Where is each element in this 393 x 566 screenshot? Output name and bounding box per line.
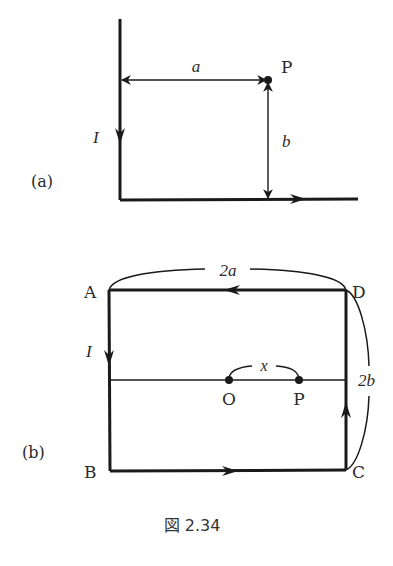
label-x: x xyxy=(259,357,267,374)
label-point-p: P xyxy=(281,57,292,77)
figure-canvas: a P b I (a) A D B C 2 xyxy=(0,0,393,566)
panel-b: A D B C 2a 2b x O P I (b) xyxy=(22,261,375,482)
panel-a: a P b I (a) xyxy=(31,19,358,204)
wire-horizontal-a xyxy=(120,199,358,200)
label-point-p: P xyxy=(293,389,304,409)
panel-label-a: (a) xyxy=(31,172,53,191)
brace-x xyxy=(276,366,299,378)
figure-caption: 図 2.34 xyxy=(164,516,221,535)
corner-label-a: A xyxy=(83,282,97,302)
label-2b: 2b xyxy=(358,371,375,390)
brace-x xyxy=(229,366,252,378)
brace-2a xyxy=(109,269,205,290)
corner-label-b: B xyxy=(84,462,97,482)
label-current-i: I xyxy=(92,128,100,147)
label-current-i: I xyxy=(85,342,93,361)
corner-label-c: C xyxy=(352,462,365,482)
point-p-dot xyxy=(264,76,272,84)
corner-label-d: D xyxy=(352,282,366,302)
brace-2a xyxy=(250,269,346,290)
label-point-o: O xyxy=(222,389,236,409)
brace-2b xyxy=(346,396,369,470)
label-2a: 2a xyxy=(220,261,237,280)
label-a: a xyxy=(192,57,201,76)
label-b: b xyxy=(282,132,291,151)
panel-label-b: (b) xyxy=(22,443,45,462)
